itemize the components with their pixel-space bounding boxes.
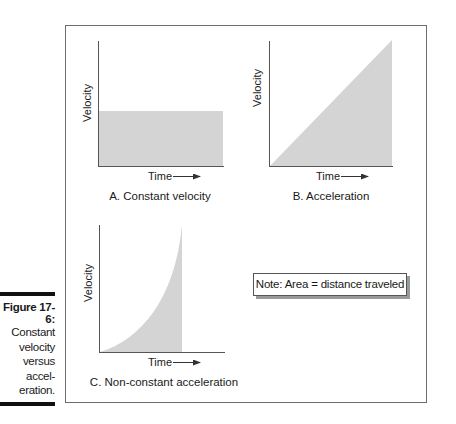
panel-c-nonconstant-acceleration: Velocity Time C. Non-constant accelerati… [82, 225, 238, 388]
x-axis-label: Time [316, 170, 340, 182]
area-shading [100, 225, 182, 352]
velocity-diagrams: Velocity Time A. Constant velocity Veloc… [0, 0, 456, 424]
panel-b-acceleration: Velocity Time B. Acceleration [251, 40, 393, 202]
y-axis-label: Velocity [251, 69, 263, 107]
y-axis-label: Velocity [82, 264, 94, 302]
x-axis-label: Time [148, 356, 172, 368]
panel-title: C. Non-constant acceleration [90, 376, 238, 388]
panel-title: A. Constant velocity [109, 190, 211, 202]
note-box: Note: Area = distance traveled [253, 273, 407, 296]
area-shading [99, 111, 223, 166]
y-axis-label: Velocity [81, 84, 93, 122]
panel-title: B. Acceleration [293, 190, 370, 202]
panel-a-constant-velocity: Velocity Time A. Constant velocity [81, 41, 224, 202]
x-axis-label: Time [148, 170, 172, 182]
area-shading [270, 40, 392, 166]
